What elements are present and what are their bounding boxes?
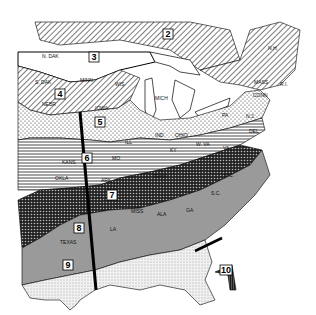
svg-text:S.C.: S.C. [211,190,221,196]
svg-text:KY: KY [170,147,177,153]
svg-text:TEXAS: TEXAS [60,239,77,245]
zone-label-2: 2 [163,29,173,39]
svg-text:3: 3 [91,52,96,62]
svg-text:W. VA: W. VA [196,141,210,147]
svg-text:TENN: TENN [153,173,167,179]
svg-text:VA: VA [223,145,230,151]
svg-text:NEBR: NEBR [42,101,56,107]
svg-text:MISS: MISS [131,208,144,214]
zone-label-10: 10 [220,265,232,275]
svg-text:2: 2 [165,29,170,39]
zone-label-6: 6 [82,153,92,163]
svg-text:4: 4 [57,89,62,99]
svg-text:WIS: WIS [115,81,125,87]
zone-label-4: 4 [55,89,65,99]
svg-text:PA: PA [222,112,229,118]
svg-text:CONN: CONN [253,92,268,98]
svg-text:MINN: MINN [80,77,93,83]
svg-text:7: 7 [109,190,114,200]
svg-text:DEL: DEL [249,128,259,134]
svg-text:ALA: ALA [157,211,167,217]
svg-text:IOWA: IOWA [95,105,109,111]
svg-text:10: 10 [221,265,231,275]
zone-label-9: 9 [63,260,73,270]
svg-text:N.J.: N.J. [246,113,255,119]
svg-text:N.C.: N.C. [224,172,234,178]
svg-text:OHIO: OHIO [175,132,188,138]
zone-label-8: 8 [74,223,84,233]
svg-text:IND: IND [155,132,164,138]
hardiness-zone-map: 2 3 4 5 6 7 8 9 10 N. DAK S. DAK MINN WI… [0,0,316,315]
svg-text:ARK: ARK [101,177,112,183]
zone-label-7: 7 [107,190,117,200]
svg-text:R.I.: R.I. [280,81,288,87]
svg-text:N. DAK: N. DAK [42,53,59,59]
svg-text:MASS: MASS [254,79,269,85]
svg-text:OKLA: OKLA [55,175,69,181]
svg-text:MO: MO [112,155,120,161]
svg-text:N.H.: N.H. [268,45,278,51]
svg-text:8: 8 [76,223,81,233]
svg-text:6: 6 [84,153,89,163]
svg-text:GA: GA [186,207,194,213]
svg-text:5: 5 [97,117,102,127]
zone-label-5: 5 [95,117,105,127]
svg-text:LA: LA [110,226,117,232]
svg-text:ILL: ILL [125,139,132,145]
svg-text:S. DAK: S. DAK [35,79,52,85]
zone-label-3: 3 [89,52,99,62]
svg-text:KANS: KANS [62,159,76,165]
svg-text:MICH: MICH [155,95,168,101]
svg-text:9: 9 [65,260,70,270]
